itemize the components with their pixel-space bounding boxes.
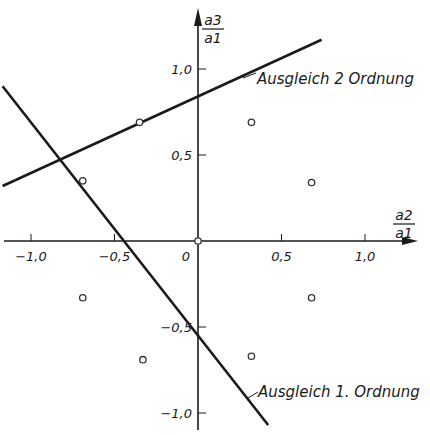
x-tick-label: 0,5 xyxy=(271,249,292,264)
y-axis-label-denominator: a1 xyxy=(204,30,222,46)
y-axis-label: a3a1 xyxy=(202,12,224,46)
x-tick-label: 0 xyxy=(182,249,190,264)
x-tick-label: −0,5 xyxy=(99,249,131,264)
fit-line-second-order xyxy=(3,40,322,186)
annotation-leader-first-order xyxy=(248,392,258,398)
y-tick-label: 0,5 xyxy=(171,148,192,163)
x-axis-label-numerator: a2 xyxy=(395,207,413,223)
data-point xyxy=(136,119,142,125)
x-axis-label: a2a1 xyxy=(393,207,415,241)
data-point xyxy=(80,295,86,301)
scatter-chart: −1,0−0,500,51,01,00,5−0,5−1,0a2a1a3a1Aus… xyxy=(0,0,430,435)
data-point xyxy=(308,179,314,185)
data-point xyxy=(248,119,254,125)
data-point xyxy=(140,356,146,362)
annotation-second-order: Ausgleich 2 Ordnung xyxy=(256,70,414,88)
y-tick-label: −0,5 xyxy=(160,320,192,335)
data-point xyxy=(195,238,201,244)
y-axis-label-numerator: a3 xyxy=(204,12,222,28)
x-tick-label: −1,0 xyxy=(15,249,47,264)
y-tick-label: 1,0 xyxy=(171,62,192,77)
fit-lines xyxy=(3,40,322,425)
x-axis-label-denominator: a1 xyxy=(395,225,413,241)
data-point xyxy=(308,295,314,301)
annotation-first-order: Ausgleich 1. Ordnung xyxy=(257,383,420,401)
data-point xyxy=(80,178,86,184)
y-axis-arrow-icon xyxy=(194,8,202,26)
y-tick-label: −1,0 xyxy=(160,406,192,421)
x-tick-label: 1,0 xyxy=(355,249,376,264)
data-point xyxy=(248,353,254,359)
